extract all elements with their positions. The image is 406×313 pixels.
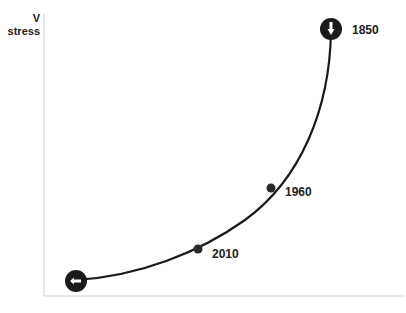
point-label-1850: 1850 bbox=[352, 23, 379, 37]
stress-curve-diagram bbox=[0, 0, 406, 313]
start-marker bbox=[65, 270, 87, 292]
point-marker-2010 bbox=[194, 245, 203, 254]
y-axis-symbol: V bbox=[0, 12, 40, 25]
end-marker bbox=[320, 18, 342, 40]
point-marker-1960 bbox=[267, 184, 276, 193]
point-label-1960: 1960 bbox=[285, 185, 312, 199]
stress-curve bbox=[76, 30, 331, 280]
y-axis-title: stress bbox=[0, 25, 40, 38]
y-axis-label: V stress bbox=[0, 12, 40, 38]
point-label-2010: 2010 bbox=[212, 247, 239, 261]
